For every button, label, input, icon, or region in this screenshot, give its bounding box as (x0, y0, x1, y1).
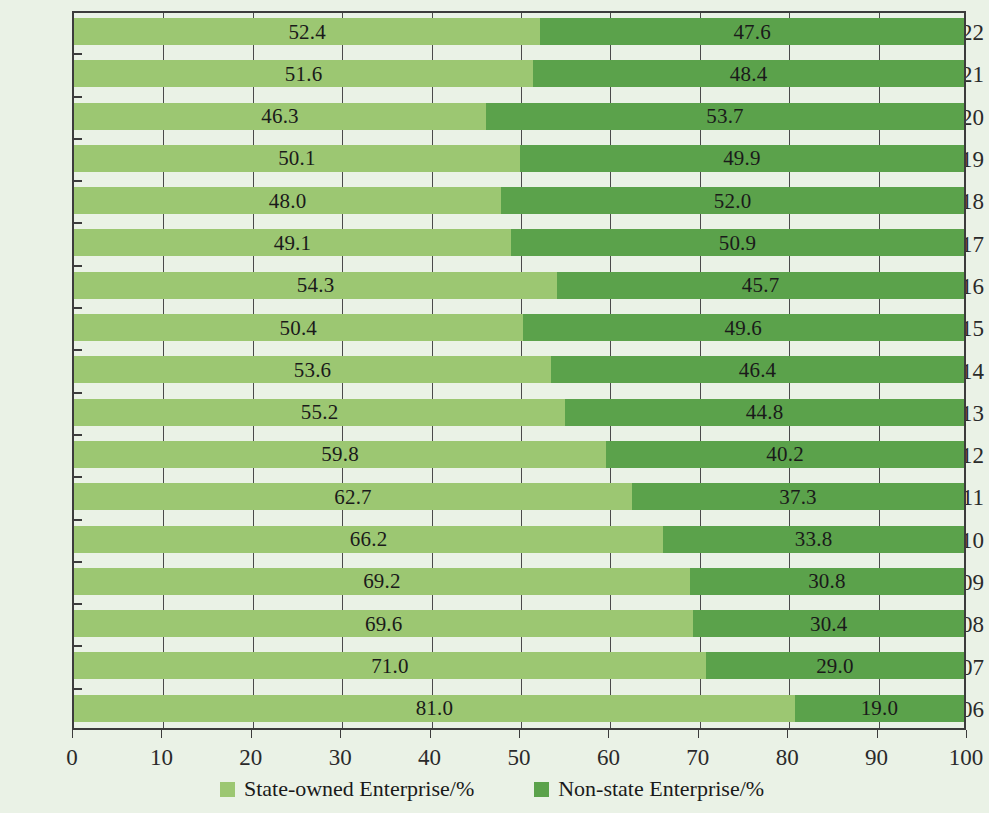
bar-segment-non-state[interactable]: 37.3 (632, 483, 964, 510)
bar-value-label: 53.7 (706, 106, 744, 127)
bar-stack[interactable]: 54.345.7 (74, 272, 964, 299)
bar-value-label: 71.0 (371, 655, 409, 676)
bar-segment-non-state[interactable]: 53.7 (486, 103, 964, 130)
bar-row: 48.052.0 (74, 182, 964, 221)
bar-value-label: 49.1 (274, 232, 312, 253)
bar-value-label: 40.2 (766, 444, 804, 465)
bar-row: 46.353.7 (74, 98, 964, 137)
x-axis-tick (698, 730, 699, 738)
bar-stack[interactable]: 50.149.9 (74, 145, 964, 172)
bar-segment-non-state[interactable]: 49.9 (520, 145, 964, 172)
bar-value-label: 51.6 (285, 63, 323, 84)
bar-value-label: 33.8 (795, 529, 833, 550)
bar-row: 59.840.2 (74, 436, 964, 475)
bar-stack[interactable]: 49.150.9 (74, 229, 964, 256)
bar-value-label: 81.0 (416, 698, 454, 719)
bar-segment-state-owned[interactable]: 48.0 (74, 187, 501, 214)
bar-segment-non-state[interactable]: 33.8 (663, 526, 964, 553)
bar-stack[interactable]: 69.630.4 (74, 610, 964, 637)
bar-value-label: 59.8 (321, 444, 359, 465)
x-axis-tick (340, 730, 341, 738)
bar-value-label: 62.7 (334, 486, 372, 507)
bar-stack[interactable]: 55.244.8 (74, 399, 964, 426)
bar-row: 50.149.9 (74, 140, 964, 179)
x-axis-tick (519, 730, 520, 738)
bar-segment-state-owned[interactable]: 81.0 (74, 695, 795, 722)
bar-value-label: 69.2 (363, 571, 401, 592)
bar-stack[interactable]: 48.052.0 (74, 187, 964, 214)
x-axis-tick (72, 730, 73, 738)
bar-segment-state-owned[interactable]: 49.1 (74, 229, 511, 256)
bar-segment-state-owned[interactable]: 69.2 (74, 568, 690, 595)
bar-row: 66.233.8 (74, 521, 964, 560)
bar-value-label: 50.1 (278, 148, 316, 169)
bar-stack[interactable]: 51.648.4 (74, 60, 964, 87)
bar-segment-non-state[interactable]: 52.0 (501, 187, 964, 214)
bar-segment-state-owned[interactable]: 46.3 (74, 103, 486, 130)
bar-segment-state-owned[interactable]: 50.1 (74, 145, 520, 172)
bar-segment-state-owned[interactable]: 69.6 (74, 610, 693, 637)
x-axis-label-90: 90 (842, 746, 912, 769)
bar-segment-state-owned[interactable]: 54.3 (74, 272, 557, 299)
bar-segment-non-state[interactable]: 48.4 (533, 60, 964, 87)
bar-value-label: 52.4 (288, 21, 326, 42)
bar-segment-non-state[interactable]: 19.0 (795, 695, 964, 722)
legend-item-state-owned[interactable]: State-owned Enterprise/% (220, 778, 474, 800)
bar-segment-state-owned[interactable]: 66.2 (74, 526, 663, 553)
bar-segment-state-owned[interactable]: 62.7 (74, 483, 632, 510)
bar-segment-state-owned[interactable]: 52.4 (74, 18, 540, 45)
bar-value-label: 50.9 (719, 232, 757, 253)
x-axis-label-10: 10 (126, 746, 196, 769)
bar-stack[interactable]: 59.840.2 (74, 441, 964, 468)
bar-stack[interactable]: 69.230.8 (74, 568, 964, 595)
x-axis-tick (877, 730, 878, 738)
bar-segment-non-state[interactable]: 46.4 (551, 356, 964, 383)
chart-legend: State-owned Enterprise/%Non-state Enterp… (0, 778, 984, 800)
x-axis-label-50: 50 (484, 746, 554, 769)
bar-value-label: 47.6 (733, 21, 771, 42)
legend-label: State-owned Enterprise/% (244, 778, 474, 800)
bar-segment-state-owned[interactable]: 71.0 (74, 652, 706, 679)
bar-segment-non-state[interactable]: 45.7 (557, 272, 964, 299)
legend-item-non-state[interactable]: Non-state Enterprise/% (534, 778, 764, 800)
bar-stack[interactable]: 66.233.8 (74, 526, 964, 553)
bar-segment-non-state[interactable]: 44.8 (565, 399, 964, 426)
legend-label: Non-state Enterprise/% (558, 778, 764, 800)
bar-value-label: 53.6 (294, 359, 332, 380)
bar-stack[interactable]: 52.447.6 (74, 18, 964, 45)
bar-value-label: 49.9 (723, 148, 761, 169)
bar-value-label: 50.4 (279, 317, 317, 338)
bar-value-label: 66.2 (350, 529, 388, 550)
bar-segment-state-owned[interactable]: 51.6 (74, 60, 533, 87)
bar-row: 69.230.8 (74, 563, 964, 602)
bar-segment-non-state[interactable]: 49.6 (523, 314, 964, 341)
bar-row: 51.648.4 (74, 55, 964, 94)
bar-stack[interactable]: 81.019.0 (74, 695, 964, 722)
bar-segment-non-state[interactable]: 50.9 (511, 229, 964, 256)
bar-value-label: 30.8 (808, 571, 846, 592)
bar-segment-state-owned[interactable]: 59.8 (74, 441, 606, 468)
bar-stack[interactable]: 62.737.3 (74, 483, 964, 510)
bar-stack[interactable]: 53.646.4 (74, 356, 964, 383)
bar-stack[interactable]: 46.353.7 (74, 103, 964, 130)
bar-segment-state-owned[interactable]: 53.6 (74, 356, 551, 383)
bar-stack[interactable]: 71.029.0 (74, 652, 964, 679)
bar-segment-non-state[interactable]: 40.2 (606, 441, 964, 468)
plot-area: 52.447.651.648.446.353.750.149.948.052.0… (72, 11, 966, 730)
x-axis-label-30: 30 (305, 746, 375, 769)
x-axis-tick (608, 730, 609, 738)
bar-row: 54.345.7 (74, 267, 964, 306)
bar-segment-non-state[interactable]: 47.6 (540, 18, 964, 45)
x-axis-tick (430, 730, 431, 738)
bar-stack[interactable]: 50.449.6 (74, 314, 964, 341)
bar-segment-state-owned[interactable]: 50.4 (74, 314, 523, 341)
bar-value-label: 37.3 (779, 486, 817, 507)
bar-segment-non-state[interactable]: 30.8 (690, 568, 964, 595)
bar-segment-state-owned[interactable]: 55.2 (74, 399, 565, 426)
bar-segment-non-state[interactable]: 29.0 (706, 652, 964, 679)
bar-row: 53.646.4 (74, 351, 964, 390)
bar-value-label: 48.0 (269, 190, 307, 211)
bar-segment-non-state[interactable]: 30.4 (693, 610, 964, 637)
x-axis-tick (966, 730, 967, 738)
